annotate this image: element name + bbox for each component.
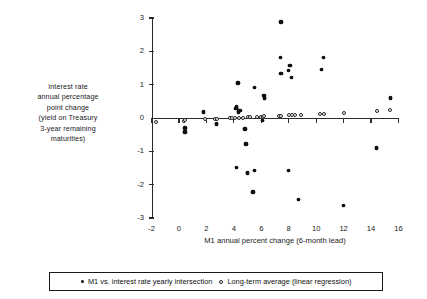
- y-tick-label: -3: [118, 213, 144, 222]
- data-point-filled: [235, 166, 238, 169]
- x-tick: [151, 118, 152, 123]
- data-point-open: [248, 115, 252, 119]
- data-point-filled: [375, 146, 378, 149]
- x-tick-label: 4: [222, 224, 246, 233]
- y-tick-label: 3: [118, 13, 144, 22]
- data-point-filled: [246, 171, 249, 174]
- y-tick: [149, 84, 154, 85]
- data-point-open: [375, 109, 379, 113]
- scatter-chart-figure: Interest rate annual percentage point ch…: [0, 0, 427, 299]
- data-point-filled: [183, 126, 186, 129]
- x-tick: [288, 118, 289, 123]
- data-point-filled: [279, 72, 282, 75]
- data-point-filled: [389, 96, 392, 99]
- data-point-open: [293, 113, 297, 117]
- data-point-open: [154, 120, 158, 124]
- y-tick-label: 1: [118, 80, 144, 89]
- x-tick-label: 14: [359, 224, 383, 233]
- plot-area: -20246810121416 -3-2-10123: [0, 0, 427, 250]
- y-tick: [149, 151, 154, 152]
- x-tick-label: 16: [387, 224, 411, 233]
- filled-circle-icon: [81, 280, 84, 283]
- data-point-filled: [238, 109, 241, 112]
- open-circle-icon: [219, 280, 223, 284]
- x-axis-line: [151, 118, 399, 119]
- data-point-filled: [287, 169, 290, 172]
- data-point-filled: [322, 56, 325, 59]
- x-tick-label: 10: [304, 224, 328, 233]
- x-tick-label: 8: [277, 224, 301, 233]
- data-point-filled: [297, 198, 300, 201]
- data-point-filled: [279, 20, 282, 23]
- data-point-open: [299, 113, 303, 117]
- x-tick-label: 0: [167, 224, 191, 233]
- data-point-filled: [320, 68, 323, 71]
- x-tick: [316, 118, 317, 123]
- x-tick-label: 12: [332, 224, 356, 233]
- data-point-open: [322, 112, 326, 116]
- legend-label: M1 vs. interest rate yearly intersection: [88, 277, 212, 286]
- data-point-filled: [279, 56, 282, 59]
- x-tick: [398, 118, 399, 123]
- data-point-open: [342, 111, 346, 115]
- x-tick: [370, 118, 371, 123]
- legend-entry-open: Long-term average (linear regression): [219, 277, 351, 286]
- x-tick: [343, 118, 344, 123]
- data-point-filled: [288, 64, 291, 67]
- y-tick-label: -2: [118, 180, 144, 189]
- data-point-filled: [215, 122, 218, 125]
- data-point-open: [215, 117, 219, 121]
- legend-entry-filled: M1 vs. interest rate yearly intersection: [81, 277, 213, 286]
- data-point-filled: [342, 204, 345, 207]
- data-point-open: [233, 116, 237, 120]
- y-tick-label: -1: [118, 146, 144, 155]
- data-point-open: [241, 116, 245, 120]
- data-point-filled: [236, 81, 239, 84]
- x-axis-title: M1 annual percent change (6-month lead): [151, 236, 399, 245]
- data-point-filled: [253, 86, 256, 89]
- x-tick-label: 6: [249, 224, 273, 233]
- y-tick-label: 0: [118, 113, 144, 122]
- data-point-filled: [251, 190, 254, 193]
- data-point-filled: [263, 96, 266, 99]
- data-point-filled: [253, 169, 256, 172]
- data-point-filled: [244, 142, 247, 145]
- chart-legend: M1 vs. interest rate yearly intersection…: [49, 272, 383, 291]
- y-tick: [149, 17, 154, 18]
- x-tick-label: -2: [140, 224, 164, 233]
- x-tick: [178, 118, 179, 123]
- y-tick: [149, 184, 154, 185]
- y-tick: [149, 217, 154, 218]
- data-point-filled: [235, 105, 238, 108]
- legend-label: Long-term average (linear regression): [227, 277, 351, 286]
- y-tick-label: 2: [118, 46, 144, 55]
- data-point-filled: [290, 76, 293, 79]
- data-point-filled: [202, 110, 205, 113]
- data-point-filled: [183, 130, 186, 133]
- x-tick-label: 2: [194, 224, 218, 233]
- data-point-open: [183, 118, 187, 122]
- data-point-open: [388, 108, 392, 112]
- y-tick: [149, 51, 154, 52]
- data-point-open: [279, 114, 283, 118]
- data-point-filled: [243, 127, 246, 130]
- data-point-filled: [261, 119, 264, 122]
- data-point-filled: [287, 69, 290, 72]
